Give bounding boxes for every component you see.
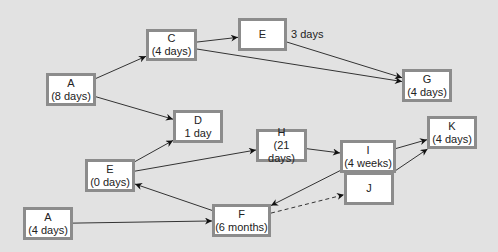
activity-node: H(21 days) [256, 129, 307, 162]
node-name: E [259, 28, 266, 41]
node-name: A [44, 211, 51, 224]
dependency-arrow [96, 97, 173, 119]
node-duration: (4 weeks) [344, 157, 392, 170]
activity-node: K(4 days) [427, 116, 477, 149]
activity-node: G(4 days) [402, 69, 452, 102]
activity-network-diagram: A(8 days)C(4 days)EG(4 days)D1 dayH(21 d… [0, 0, 498, 252]
node-duration: (4 days) [28, 224, 68, 237]
node-name: H [278, 126, 286, 139]
dependency-arrow [393, 149, 427, 172]
node-duration: 1 day [185, 127, 212, 140]
activity-node: C(4 days) [146, 29, 197, 61]
node-duration: (21 days) [259, 139, 304, 165]
edge-duration-label: 3 days [291, 28, 323, 40]
dependency-arrow [197, 37, 238, 42]
node-name: E [106, 163, 113, 176]
node-duration: (4 days) [407, 86, 447, 99]
activity-node: D1 day [173, 110, 223, 143]
activity-node: J [344, 172, 394, 205]
node-name: K [448, 120, 455, 133]
dependency-arrow [135, 184, 212, 210]
dependency-arrow [396, 140, 427, 149]
activity-node: E(0 days) [85, 159, 135, 192]
node-name: C [168, 32, 176, 45]
activity-node: A(8 days) [46, 73, 96, 106]
dependency-arrow [135, 150, 256, 171]
node-name: A [67, 77, 74, 90]
node-duration: (6 months) [215, 221, 268, 234]
activity-node: F(6 months) [212, 204, 271, 237]
activity-node: I(4 weeks) [340, 140, 396, 173]
dependency-arrow [96, 56, 146, 78]
node-name: G [423, 73, 432, 86]
node-name: F [238, 208, 245, 221]
dependency-arrow [307, 149, 340, 153]
node-duration: (8 days) [51, 90, 91, 103]
dependency-arrow [197, 49, 402, 81]
dependency-arrow [271, 195, 344, 213]
node-duration: (4 days) [152, 45, 192, 58]
node-duration: (0 days) [90, 176, 130, 189]
node-name: D [194, 114, 202, 127]
node-duration: (4 days) [432, 133, 472, 146]
dependency-arrow [135, 140, 173, 161]
node-name: J [366, 182, 372, 195]
dependency-arrow [271, 171, 340, 206]
dependency-arrow [73, 221, 212, 223]
activity-node: A(4 days) [23, 207, 73, 240]
node-name: I [366, 144, 369, 157]
activity-node: E [238, 18, 287, 51]
